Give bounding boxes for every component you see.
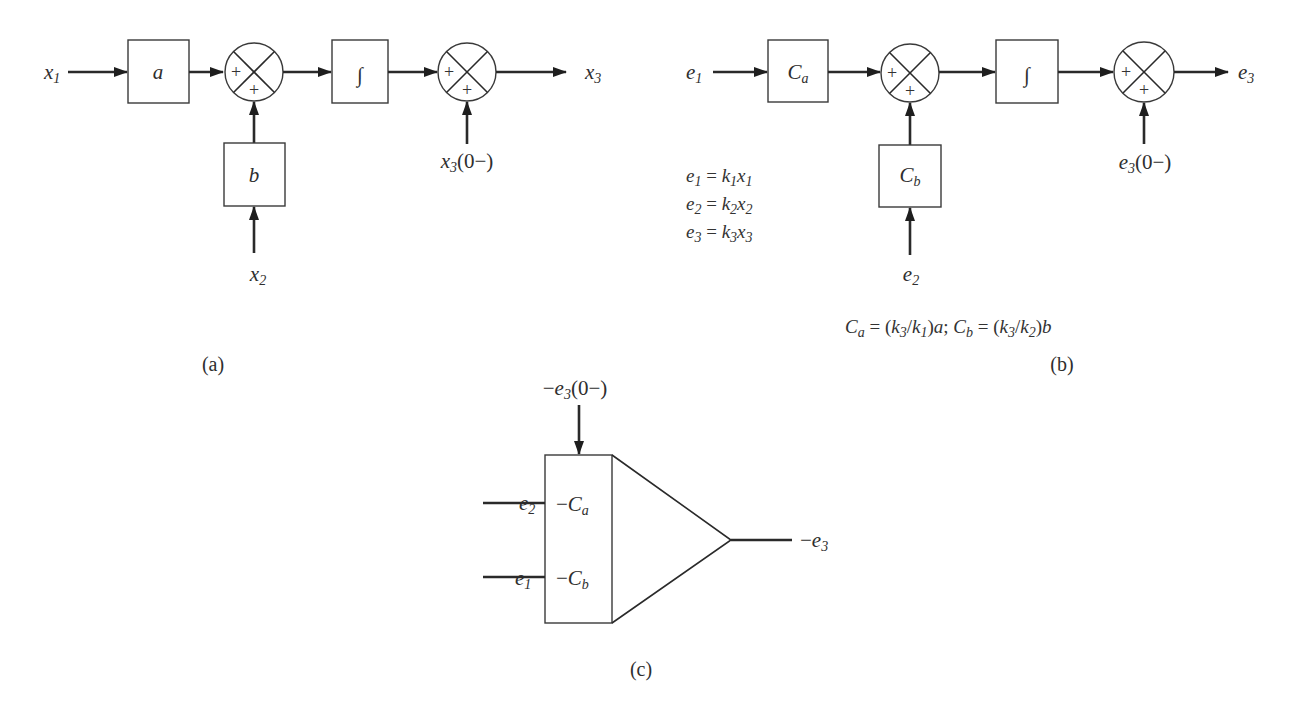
gain-a-label: a <box>153 60 164 84</box>
label-x1: x1 <box>43 60 60 86</box>
plus-sign: + <box>887 63 897 83</box>
analog-computer-diagram: x1 a + + b x2 ∫ + + x3(0−) x <box>0 0 1295 709</box>
label-x3-output: x3 <box>584 60 601 86</box>
plus-sign: + <box>905 81 915 101</box>
plus-sign: + <box>1121 62 1131 82</box>
integral-icon: ∫ <box>1022 63 1031 88</box>
equation-e3: e3 = k3x3 <box>686 221 753 245</box>
label-e2: e2 <box>903 262 919 288</box>
caption-c: (c) <box>630 658 652 681</box>
panel-c: −e3(0−) e2 −Ca e1 −Cb −e3 (c) <box>483 376 828 681</box>
summing-junction-b2: + + <box>1114 42 1174 102</box>
scaling-equations: e1 = k1x1 e2 = k2x2 e3 = k3x3 <box>686 165 753 245</box>
label-x3-initial: x3(0−) <box>440 149 494 175</box>
integrator-input-block <box>545 455 612 623</box>
summing-junction-2: + + <box>438 43 496 101</box>
caption-b: (b) <box>1050 353 1073 376</box>
panel-a: x1 a + + b x2 ∫ + + x3(0−) x <box>43 40 601 376</box>
equation-e2: e2 = k2x2 <box>686 193 753 217</box>
plus-sign: + <box>249 80 259 100</box>
label-neg-e3-initial: −e3(0−) <box>543 376 608 402</box>
panel-b: e1 Ca + + Cb e2 ∫ + + e3(0−) <box>686 40 1254 376</box>
amplifier-triangle <box>612 455 731 623</box>
label-neg-e3-output: −e3 <box>800 528 828 554</box>
label-e1: e1 <box>686 60 702 86</box>
scaling-note: Ca = (k3/k1)a; Cb = (k3/k2)b <box>845 316 1051 340</box>
label-e1-input: e1 <box>515 566 531 592</box>
plus-sign: + <box>231 62 241 82</box>
equation-e1: e1 = k1x1 <box>686 165 753 189</box>
integral-icon: ∫ <box>355 63 364 88</box>
label-e3-initial: e3(0−) <box>1119 150 1172 176</box>
label-e3-output: e3 <box>1238 60 1254 86</box>
summing-junction-b1: + + <box>881 44 939 102</box>
plus-sign: + <box>444 62 454 82</box>
plus-sign: + <box>462 80 472 100</box>
plus-sign: + <box>1139 80 1149 100</box>
summing-junction-1: + + <box>225 43 283 101</box>
label-x2: x2 <box>249 262 266 288</box>
caption-a: (a) <box>202 353 224 376</box>
gain-b-label: b <box>249 163 260 187</box>
